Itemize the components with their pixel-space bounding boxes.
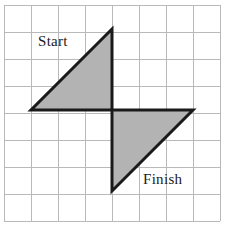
rotation-figure-container: Start Finish <box>0 0 225 228</box>
start-label: Start <box>38 33 68 49</box>
finish-label: Finish <box>143 171 183 187</box>
figure-canvas: Start Finish <box>0 0 225 228</box>
